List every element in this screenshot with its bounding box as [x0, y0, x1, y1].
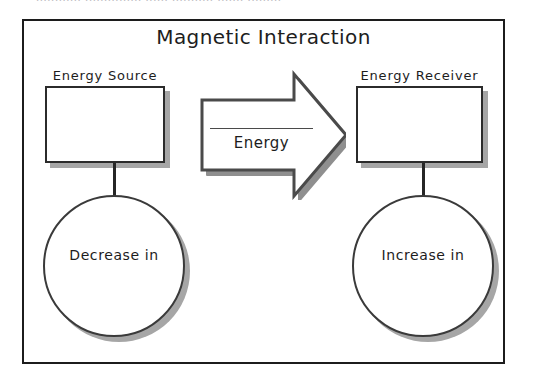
clipped-text: ............ ............... ...... ....…: [36, 0, 282, 3]
energy-receiver-box[interactable]: [356, 86, 483, 163]
energy-label-rule: [210, 128, 313, 129]
diagram-canvas: ............ ............... ...... ....…: [0, 0, 534, 382]
energy-flow-label: Energy: [205, 134, 318, 152]
energy-receiver-label: Energy Receiver: [356, 68, 483, 83]
source-effect-label: Decrease in: [43, 247, 185, 263]
source-connector-line: [113, 163, 116, 196]
receiver-effect-circle[interactable]: [352, 195, 494, 337]
clipped-text-line: ............ ............... ...... ....…: [0, 0, 534, 9]
energy-source-box[interactable]: [45, 86, 165, 163]
energy-source-label: Energy Source: [45, 68, 165, 83]
energy-flow-arrow: [194, 66, 346, 200]
receiver-effect-label: Increase in: [352, 247, 494, 263]
diagram-title: Magnetic Interaction: [22, 25, 505, 49]
source-effect-circle[interactable]: [43, 195, 185, 337]
receiver-connector-line: [422, 163, 425, 196]
